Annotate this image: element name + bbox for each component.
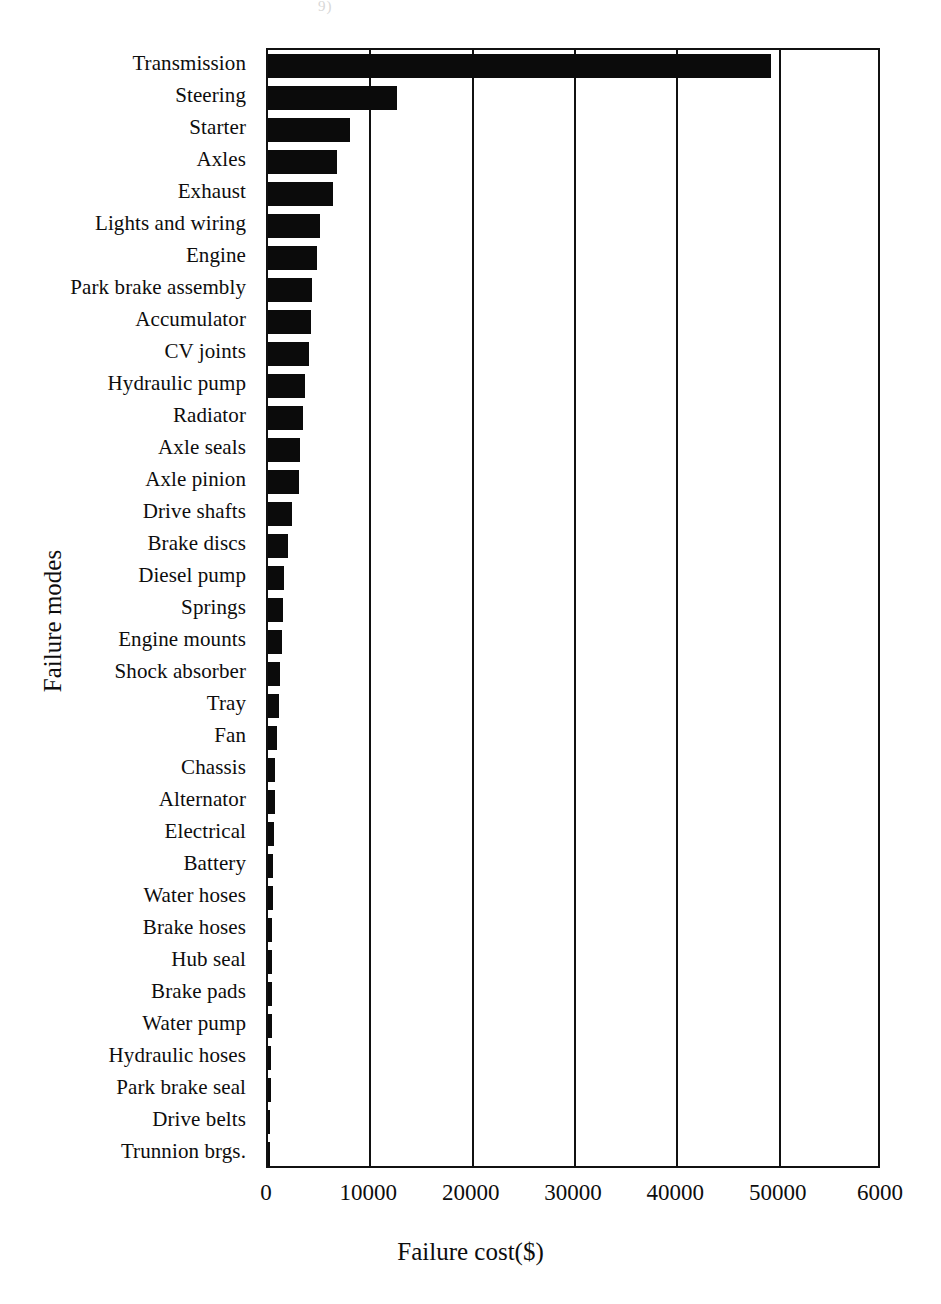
x-axis-tick-label: 40000 [647, 1180, 705, 1206]
bar-row [268, 950, 882, 974]
bar-row [268, 150, 882, 174]
bar-row [268, 790, 882, 814]
bar-row [268, 822, 882, 846]
bar-row [268, 1078, 882, 1102]
bar-row [268, 598, 882, 622]
y-axis-tick-label: Transmission [132, 53, 246, 74]
y-axis-tick-label: Park brake assembly [70, 277, 246, 298]
y-axis-tick-label: Axle seals [158, 437, 246, 458]
y-axis-tick-label: Shock absorber [115, 661, 246, 682]
y-axis-tick-label: Battery [183, 853, 246, 874]
y-axis-tick-label: CV joints [164, 341, 246, 362]
bar [268, 54, 771, 78]
bar [268, 470, 299, 494]
y-axis-tick-label: Engine [186, 245, 246, 266]
bar [268, 214, 320, 238]
y-axis-tick-label: Hub seal [171, 949, 246, 970]
bar-row [268, 1142, 882, 1166]
bar [268, 598, 283, 622]
y-axis-tick-label: Fan [214, 725, 246, 746]
x-axis-tick-label: 6000 [857, 1180, 903, 1206]
bar [268, 790, 275, 814]
y-axis-tick-label: Trunnion brgs. [121, 1141, 246, 1162]
bar [268, 438, 300, 462]
bar-row [268, 374, 882, 398]
plot-area [266, 48, 880, 1168]
y-axis-tick-label: Tray [207, 693, 246, 714]
y-axis-tick-labels: TransmissionSteeringStarterAxlesExhaustL… [60, 0, 246, 1304]
bar [268, 630, 282, 654]
page-artifact-text: 9) [318, 0, 333, 15]
bar [268, 1078, 271, 1102]
bar-row [268, 246, 882, 270]
y-axis-tick-label: Radiator [173, 405, 246, 426]
x-axis-tick-label: 50000 [749, 1180, 807, 1206]
bar [268, 534, 288, 558]
bar [268, 758, 275, 782]
bar [268, 1046, 271, 1070]
bar-row [268, 182, 882, 206]
bar-row [268, 406, 882, 430]
bar [268, 502, 292, 526]
bar-row [268, 534, 882, 558]
y-axis-tick-label: Springs [181, 597, 246, 618]
y-axis-tick-label: Accumulator [135, 309, 246, 330]
bar [268, 726, 277, 750]
x-axis-tick-label: 10000 [340, 1180, 398, 1206]
bar [268, 150, 337, 174]
bar [268, 246, 317, 270]
bar [268, 822, 274, 846]
bar [268, 342, 309, 366]
bar [268, 950, 272, 974]
bar [268, 854, 273, 878]
y-axis-tick-label: Axle pinion [145, 469, 246, 490]
bar [268, 278, 312, 302]
bar [268, 374, 305, 398]
bar-row [268, 758, 882, 782]
y-axis-tick-label: Water hoses [143, 885, 246, 906]
bar-row [268, 982, 882, 1006]
y-axis-tick-label: Steering [175, 85, 246, 106]
bar-row [268, 54, 882, 78]
bar-row [268, 86, 882, 110]
bar [268, 918, 272, 942]
y-axis-tick-label: Hydraulic pump [108, 373, 246, 394]
y-axis-tick-label: Drive belts [152, 1109, 246, 1130]
bar [268, 182, 333, 206]
y-axis-tick-label: Drive shafts [143, 501, 246, 522]
bar [268, 1014, 272, 1038]
y-axis-tick-label: Alternator [159, 789, 246, 810]
bar-row [268, 438, 882, 462]
bar-row [268, 1110, 882, 1134]
y-axis-tick-label: Water pump [142, 1013, 246, 1034]
bar-row [268, 566, 882, 590]
bar-row [268, 342, 882, 366]
bar-row [268, 310, 882, 334]
bar-row [268, 854, 882, 878]
x-axis-tick-label: 30000 [544, 1180, 602, 1206]
bar [268, 566, 284, 590]
y-axis-tick-label: Park brake seal [116, 1077, 246, 1098]
bar-row [268, 886, 882, 910]
bar [268, 1142, 270, 1166]
bar [268, 982, 272, 1006]
bar [268, 406, 303, 430]
bar-row [268, 1046, 882, 1070]
y-axis-tick-label: Exhaust [178, 181, 246, 202]
bar [268, 662, 280, 686]
x-axis-title: Failure cost($) [0, 1238, 941, 1266]
x-axis-tick-label: 20000 [442, 1180, 500, 1206]
bar [268, 1110, 270, 1134]
bar [268, 886, 273, 910]
y-axis-tick-label: Diesel pump [138, 565, 246, 586]
bar [268, 694, 279, 718]
bar [268, 310, 311, 334]
bar-row [268, 118, 882, 142]
bar-row [268, 918, 882, 942]
bar-row [268, 1014, 882, 1038]
bar-row [268, 502, 882, 526]
failure-cost-bar-chart: 9) Failure modes TransmissionSteeringSta… [0, 0, 941, 1304]
y-axis-tick-label: Engine mounts [118, 629, 246, 650]
bar-row [268, 630, 882, 654]
bar-row [268, 726, 882, 750]
